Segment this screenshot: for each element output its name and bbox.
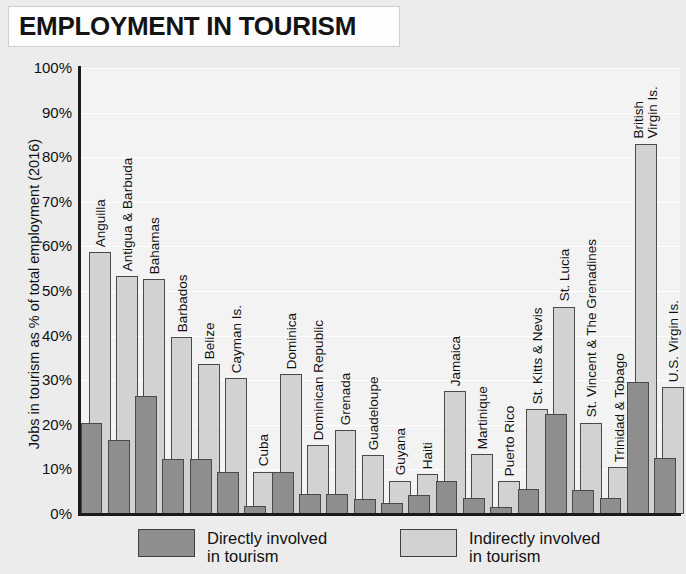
- x-axis-category-label: Dominican Republic: [312, 320, 326, 440]
- x-axis-category-label: Belize: [203, 322, 217, 359]
- x-axis-category-label: Martinique: [476, 386, 490, 449]
- bar-direct: [81, 423, 103, 514]
- x-axis-line: [78, 513, 681, 516]
- bar-group: Belize: [190, 68, 217, 514]
- bar-direct: [627, 382, 649, 514]
- legend-label-direct: Directly involved in tourism: [207, 529, 327, 566]
- x-axis-category-label: Haiti: [421, 442, 435, 469]
- x-axis-category-label: Cayman Is.: [230, 305, 244, 373]
- bar-group: Cuba: [244, 68, 271, 514]
- x-axis-category-label: Cuba: [257, 434, 271, 466]
- x-axis-category-label: Barbados: [175, 275, 189, 333]
- bar-direct: [217, 472, 239, 514]
- x-axis-category-label: Dominica: [285, 313, 299, 369]
- chart-title-box: EMPLOYMENT IN TOURISM: [8, 6, 400, 47]
- bar-direct: [108, 440, 130, 514]
- bar-group: Dominican Republic: [299, 68, 326, 514]
- bar-group: Puerto Rico: [490, 68, 517, 514]
- bar-group: Dominica: [272, 68, 299, 514]
- x-axis-category-label: Bahamas: [148, 217, 162, 274]
- x-axis-category-label: St. Lucia: [558, 249, 572, 302]
- legend-swatch-direct: [138, 529, 195, 557]
- bar-direct: [545, 414, 567, 514]
- bar-direct: [600, 498, 622, 514]
- bar-direct: [408, 495, 430, 514]
- x-axis-category-label: St. Vincent & The Grenadines: [585, 239, 599, 417]
- x-axis-category-label: Anguilla: [93, 199, 107, 247]
- bar-direct: [272, 472, 294, 514]
- chart-figure: EMPLOYMENT IN TOURISM Jobs in tourism as…: [0, 0, 686, 574]
- plot-area: AnguillaAntigua & BarbudaBahamasBarbados…: [79, 68, 680, 514]
- legend-label-indirect-line1: Indirectly involved: [469, 529, 600, 547]
- bar-group: Barbados: [162, 68, 189, 514]
- x-axis-category-label: Jamaica: [449, 336, 463, 386]
- bar-group: Martinique: [463, 68, 490, 514]
- x-axis-category-label: Puerto Rico: [503, 406, 517, 477]
- y-axis-label: Jobs in tourism as % of total employment…: [26, 74, 42, 514]
- bar-group: U.S. Virgin Is.: [654, 68, 681, 514]
- x-axis-category-label: Guadeloupe: [367, 376, 381, 450]
- bar-group: Antigua & Barbuda: [108, 68, 135, 514]
- bar-group: Trinidad & Tobago: [600, 68, 627, 514]
- y-axis-line: [78, 66, 81, 516]
- bar-group: Haiti: [408, 68, 435, 514]
- x-axis-category-label: Guyana: [394, 428, 408, 475]
- bar-group: BritishVirgin Is.: [627, 68, 654, 514]
- x-axis-category-label: Antigua & Barbuda: [121, 158, 135, 271]
- bar-group: Cayman Is.: [217, 68, 244, 514]
- bar-group: St. Kitts & Nevis: [518, 68, 545, 514]
- legend-label-direct-line1: Directly involved: [207, 529, 327, 547]
- bar-group: Guadeloupe: [354, 68, 381, 514]
- bar-direct: [135, 396, 157, 514]
- bar-group: Jamaica: [436, 68, 463, 514]
- bar-group: St. Vincent & The Grenadines: [572, 68, 599, 514]
- bar-direct: [436, 481, 458, 514]
- bar-group: Bahamas: [135, 68, 162, 514]
- bar-direct: [162, 459, 184, 514]
- bar-group: Grenada: [326, 68, 353, 514]
- bar-group: Anguilla: [81, 68, 108, 514]
- x-axis-category-label: Grenada: [339, 373, 353, 426]
- legend-item-direct: Directly involved in tourism: [138, 529, 327, 566]
- x-axis-category-label: U.S. Virgin Is.: [667, 300, 681, 382]
- bar-direct: [326, 494, 348, 514]
- bar-group: Guyana: [381, 68, 408, 514]
- bar-direct: [572, 490, 594, 514]
- bar-group: St. Lucia: [545, 68, 572, 514]
- legend-item-indirect: Indirectly involved in tourism: [400, 529, 600, 566]
- x-axis-category-label: St. Kitts & Nevis: [530, 307, 544, 404]
- bar-direct: [463, 498, 485, 514]
- bar-direct: [654, 458, 676, 514]
- bar-direct: [299, 494, 321, 514]
- legend-label-indirect-line2: in tourism: [469, 547, 541, 565]
- legend-swatch-indirect: [400, 529, 457, 557]
- page-title: EMPLOYMENT IN TOURISM: [9, 11, 356, 42]
- chart-legend: Directly involved in tourism Indirectly …: [0, 519, 686, 574]
- bar-direct: [518, 489, 540, 514]
- bar-direct: [190, 459, 212, 514]
- legend-label-direct-line2: in tourism: [207, 547, 279, 565]
- bar-direct: [354, 499, 376, 514]
- legend-label-indirect: Indirectly involved in tourism: [469, 529, 600, 566]
- x-axis-category-label: Trinidad & Tobago: [612, 353, 626, 462]
